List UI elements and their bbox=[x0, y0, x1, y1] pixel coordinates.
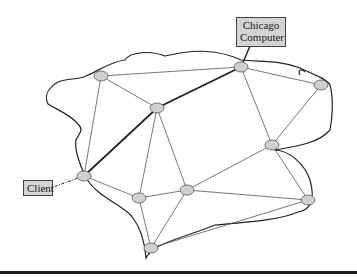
chicago-label-line1: Chicago bbox=[240, 19, 282, 31]
edges bbox=[84, 67, 321, 248]
bottom-rule bbox=[0, 271, 357, 274]
node bbox=[301, 195, 315, 205]
node bbox=[180, 185, 194, 195]
node bbox=[265, 140, 279, 150]
node bbox=[150, 103, 164, 113]
network-boundary bbox=[46, 51, 332, 258]
nodes bbox=[77, 62, 328, 253]
chicago-computer-label: Chicago Computer bbox=[236, 17, 286, 47]
node-client bbox=[77, 171, 91, 181]
node bbox=[94, 71, 108, 81]
node bbox=[314, 80, 328, 90]
client-label-text: Client bbox=[27, 182, 54, 194]
node bbox=[144, 243, 158, 253]
network-diagram bbox=[0, 0, 357, 277]
client-label: Client bbox=[23, 180, 53, 196]
node bbox=[132, 193, 146, 203]
route-path bbox=[84, 67, 241, 176]
boundary-hook bbox=[299, 70, 305, 75]
chicago-label-line2: Computer bbox=[240, 31, 282, 43]
node-chicago bbox=[234, 62, 248, 72]
